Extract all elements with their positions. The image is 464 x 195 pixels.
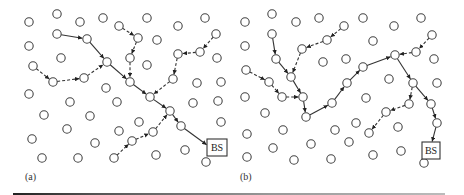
sensor-node-icon [135, 118, 143, 126]
sensor-node-icon [331, 126, 339, 134]
sensor-node-icon [369, 151, 377, 159]
dashed-route-edge [306, 41, 323, 47]
sensor-node-icon [323, 36, 331, 44]
sensor-node-icon [102, 84, 110, 92]
sensor-node-icon [243, 130, 251, 138]
dashed-route-edge [156, 115, 167, 129]
sensor-node-icon [385, 75, 393, 83]
sensor-node-icon [38, 154, 46, 162]
sensor-node-icon [417, 14, 425, 22]
sensor-node-icon [352, 119, 360, 127]
sensor-node-icon [110, 154, 118, 162]
sensor-node-icon [25, 42, 33, 50]
dashed-route-edge [36, 69, 49, 79]
sensor-node-icon [241, 18, 249, 26]
sensor-node-icon [307, 140, 315, 148]
sensor-node-icon [28, 135, 36, 143]
sensor-node-icon [113, 98, 121, 106]
sensor-node-icon [174, 22, 182, 30]
sensor-node-icon [290, 156, 298, 164]
sensor-node-icon [181, 146, 189, 154]
sensor-node-icon [292, 18, 300, 26]
solid-route-edge [110, 65, 126, 79]
sensor-node-icon [217, 118, 225, 126]
sensor-node-icon [345, 138, 353, 146]
network-diagram: BS(a) BS(b) [0, 0, 464, 195]
sensor-node-icon [91, 139, 99, 147]
solid-route-edge [304, 101, 306, 112]
solid-route-edge [432, 108, 435, 119]
solid-route-edge [90, 42, 104, 58]
sensor-node-icon [40, 111, 48, 119]
sensor-node-icon [29, 62, 37, 70]
sensor-node-icon [279, 126, 287, 134]
sensor-node-icon [174, 50, 182, 58]
sensor-node-icon [390, 22, 398, 30]
sensor-node-icon [143, 14, 151, 22]
dashed-route-edge [87, 65, 103, 76]
sensor-node-icon [261, 109, 269, 117]
solid-route-edge [133, 85, 146, 95]
sensor-node-icon [328, 99, 336, 107]
solid-route-edge [367, 57, 391, 66]
sensor-node-icon [214, 97, 222, 105]
dashed-route-edge [117, 144, 129, 155]
sensor-node-icon [83, 35, 91, 43]
solid-route-edge [279, 62, 288, 73]
sensor-node-icon [80, 74, 88, 82]
sensor-node-icon [49, 78, 57, 86]
solid-route-edge [273, 38, 276, 54]
sensor-node-icon [269, 144, 277, 152]
solid-route-edge [61, 35, 82, 39]
sensor-node-icon [152, 151, 160, 159]
sensor-node-icon [433, 119, 441, 127]
base-station-label: BS [211, 142, 223, 153]
sensor-node-icon [391, 51, 399, 59]
sensor-node-icon [76, 18, 84, 26]
sensor-node-icon [193, 79, 201, 87]
dashed-route-edge [203, 37, 213, 48]
dashed-route-edge [272, 85, 279, 93]
sensor-node-icon [359, 14, 367, 22]
sensor-node-icon [340, 22, 348, 30]
sensor-node-icon [57, 54, 65, 62]
sensor-node-icon [143, 61, 151, 69]
dashed-route-edge [174, 58, 177, 74]
sensor-node-icon [362, 94, 370, 102]
sensor-node-icon [433, 79, 441, 87]
solid-route-edge [397, 59, 410, 80]
sensor-node-icon [272, 55, 280, 63]
sensor-node-icon [327, 155, 335, 163]
sensor-node-icon [169, 75, 177, 83]
sensor-node-icon [115, 127, 123, 135]
sensor-node-icon [278, 93, 286, 101]
panel-a: BS(a) [25, 10, 227, 183]
sensor-node-icon [265, 78, 273, 86]
sensor-node-icon [343, 79, 351, 87]
sensor-node-icon [177, 122, 185, 130]
solid-route-edge [293, 81, 300, 93]
sensor-node-icon [268, 30, 276, 38]
sensor-node-icon [241, 93, 249, 101]
sensor-node-icon [243, 153, 251, 161]
solid-route-edge [310, 105, 328, 115]
sensor-node-icon [397, 147, 405, 155]
dashed-route-edge [331, 29, 341, 37]
sensor-node-icon [365, 129, 373, 137]
sensor-node-icon [315, 14, 323, 22]
sensor-node-icon [189, 99, 197, 107]
dashed-route-edge [372, 115, 383, 129]
sensor-node-icon [99, 14, 107, 22]
sensor-node-icon [153, 36, 161, 44]
sensor-node-icon [212, 30, 220, 38]
sensor-node-icon [25, 18, 33, 26]
solid-route-edge [350, 70, 360, 80]
solid-route-edge [416, 86, 428, 100]
dashed-route-edge [154, 82, 170, 95]
solid-route-edge [172, 114, 178, 122]
sensor-node-icon [299, 93, 307, 101]
sensor-node-icon [241, 42, 249, 50]
sensor-node-icon [103, 58, 111, 66]
sensor-node-icon [196, 48, 204, 56]
sensor-node-icon [420, 159, 428, 167]
